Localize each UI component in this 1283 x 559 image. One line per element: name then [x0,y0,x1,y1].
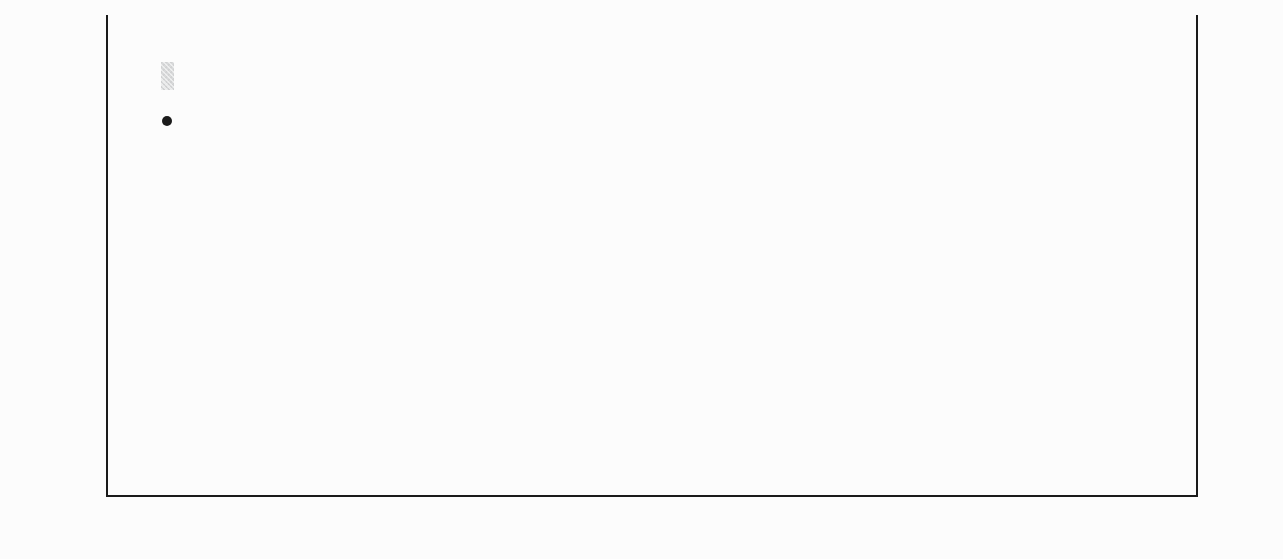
legend-item-aphid [159,60,201,92]
aphid-bar-swatch-icon [161,62,174,90]
chart-legend [159,60,201,150]
legend-item-ladybird [159,105,201,137]
plot-area [106,15,1198,497]
ladybird-dot-swatch-icon [162,116,172,126]
population-chart-figure [0,0,1283,559]
